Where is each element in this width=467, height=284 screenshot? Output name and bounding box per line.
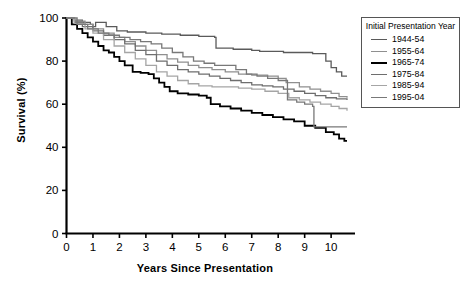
legend-entry-1985-94: 1985-94 [365,80,456,92]
legend-label: 1955-64 [392,46,424,58]
legend-entry-1965-74: 1965-74 [365,57,456,69]
y-tick-label: 20 [46,184,59,196]
legend-line-swatch [371,62,387,64]
x-tick-label: 3 [143,241,149,253]
legend-line-swatch [371,85,387,86]
x-tick-label: 10 [325,241,338,253]
x-tick-label: 2 [116,241,122,253]
x-tick-label: 7 [249,241,255,253]
survival-curve-1995-04 [67,18,348,127]
legend-label: 1975-84 [392,69,424,81]
legend-entry-1955-64: 1955-64 [365,46,456,58]
x-tick-label: 9 [301,241,307,253]
y-tick-label: 0 [52,228,58,240]
legend-entry-1944-54: 1944-54 [365,34,456,46]
x-tick-label: 0 [63,241,69,253]
legend: Initial Presentation Year 1944-541955-64… [361,17,460,108]
y-tick-label: 40 [46,141,59,153]
legend-line-swatch [371,39,387,40]
legend-title: Initial Presentation Year [365,21,456,31]
axes: 020406080100012345678910 [39,12,355,253]
y-tick-label: 100 [39,12,58,24]
legend-label: 1944-54 [392,34,424,46]
legend-line-swatch [371,74,387,75]
survival-curves [67,18,348,141]
x-tick-label: 6 [222,241,228,253]
y-tick-label: 80 [46,55,59,67]
legend-entry-1995-04: 1995-04 [365,92,456,104]
legend-label: 1965-74 [392,57,424,69]
legend-label: 1985-94 [392,80,424,92]
legend-line-swatch [371,51,387,52]
survival-chart-figure: Survival (%) Years Since Presentation 02… [0,0,467,284]
legend-label: 1995-04 [392,92,424,104]
x-axis-title: Years Since Presentation [66,262,344,274]
legend-line-swatch [371,97,387,98]
x-tick-label: 1 [90,241,96,253]
legend-entry-1975-84: 1975-84 [365,69,456,81]
x-tick-label: 8 [275,241,281,253]
legend-entries: 1944-541955-641965-741975-841985-941995-… [365,34,456,103]
y-axis-title: Survival (%) [15,55,27,165]
x-tick-label: 5 [196,241,202,253]
y-tick-label: 60 [46,98,59,110]
x-tick-label: 4 [169,241,176,253]
